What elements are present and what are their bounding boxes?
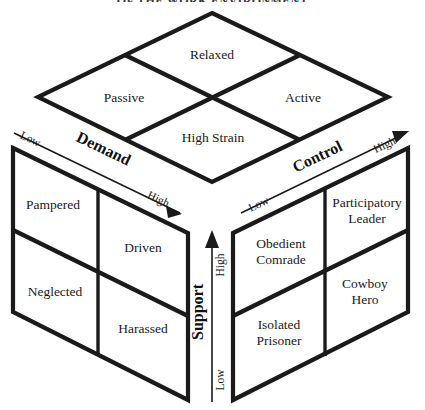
cell-neglected: Neglected	[28, 284, 83, 299]
cell-active: Active	[285, 90, 321, 105]
cell-pampered: Pampered	[26, 197, 80, 212]
axis-control-low-label: Low	[246, 193, 271, 213]
cell-obedient-comrade-line1: Obedient	[256, 236, 306, 251]
cube-diagram: Relaxed Passive Active High Strain Pampe…	[0, 0, 425, 410]
cell-passive: Passive	[104, 90, 145, 105]
cell-isolated-prisoner-line1: Isolated	[258, 317, 301, 332]
diagram-canvas: OF THE WORK ENVIRONMENT Relaxed Passive …	[0, 0, 425, 410]
cell-cowboy-hero-line2: Hero	[352, 292, 379, 307]
axis-support-arrowhead	[205, 230, 219, 248]
cell-participatory-leader-line2: Leader	[348, 211, 386, 226]
right-face-group: Participatory Leader Obedient Comrade Co…	[233, 148, 408, 400]
cell-driven: Driven	[124, 240, 162, 255]
left-face-group: Pampered Driven Neglected Harassed	[13, 148, 188, 400]
cell-obedient-comrade-line2: Comrade	[256, 252, 306, 267]
cell-participatory-leader-line1: Participatory	[332, 195, 402, 210]
cell-relaxed: Relaxed	[190, 47, 234, 62]
axis-support-low-label: Low	[214, 369, 226, 391]
cell-harassed: Harassed	[118, 321, 168, 336]
cell-high-strain: High Strain	[182, 130, 245, 145]
axis-support-high-label: High	[214, 253, 227, 276]
axis-support: High Support Low	[189, 230, 227, 402]
cell-isolated-prisoner-line2: Prisoner	[257, 333, 303, 348]
cell-cowboy-hero-line1: Cowboy	[342, 276, 388, 291]
axis-support-name: Support	[189, 283, 207, 340]
